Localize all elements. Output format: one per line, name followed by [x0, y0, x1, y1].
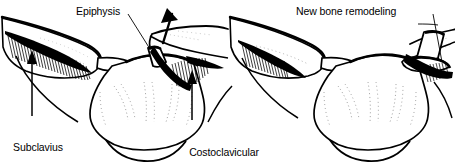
subclavius-muscle-label: Subclavius muscle — [2, 119, 74, 168]
new-bone-remodeling-label: New bone remodeling — [296, 6, 396, 18]
rib-contour-left — [208, 86, 232, 122]
displacement-arrow — [161, 8, 178, 43]
costoclavicular-ligament-label-line1: Costoclavicular — [172, 147, 276, 159]
left-clavicle-r — [230, 17, 325, 78]
subclavius-muscle-label-line1: Subclavius — [2, 142, 74, 154]
epiphysis-label: Epiphysis — [76, 6, 120, 18]
clavicle-physeal-injury-figure: Epiphysis Subclavius muscle Costoclavicu… — [0, 0, 455, 168]
rib-contour-right — [434, 82, 452, 118]
costoclavicular-ligament-label: Costoclavicular ligament attached to per… — [172, 124, 276, 168]
epiphysis-leader-line — [128, 14, 150, 49]
